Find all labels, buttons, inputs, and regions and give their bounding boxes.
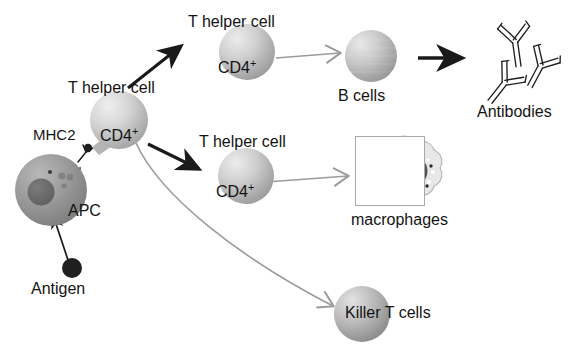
cd4-mid-label: CD4+ bbox=[216, 182, 254, 200]
arrow-layer bbox=[0, 0, 578, 352]
antigen-dot bbox=[62, 258, 82, 278]
arrow-thelper-to-thelper-mid bbox=[148, 144, 199, 169]
apc-granule bbox=[48, 170, 52, 174]
t-helper-top-label: T helper cell bbox=[188, 14, 275, 30]
antibody-group bbox=[478, 20, 564, 112]
mhc2-label: MHC2 bbox=[33, 127, 76, 142]
cd4-top-label: CD4+ bbox=[218, 58, 256, 76]
cd4-main-label: CD4+ bbox=[100, 126, 138, 144]
t-helper-mid-label: T helper cell bbox=[199, 134, 286, 150]
arrow-thelper-top-to-bcells bbox=[276, 53, 340, 58]
apc-label: APC bbox=[68, 203, 101, 219]
arrow-thelper-mid-to-macrophages bbox=[266, 176, 348, 182]
apc-nucleus bbox=[28, 179, 55, 206]
antibodies-label: Antibodies bbox=[477, 104, 552, 120]
mhc2-peptide-dot bbox=[84, 144, 92, 152]
antibody-2 bbox=[516, 42, 563, 94]
immune-response-diagram: T helper cell CD4+ MHC2 APC Antigen T he… bbox=[0, 0, 578, 352]
antigen-label: Antigen bbox=[31, 281, 85, 297]
b-cells-label: B cells bbox=[338, 88, 385, 104]
macrophage-box bbox=[355, 136, 425, 206]
macrophages-label: macrophages bbox=[351, 212, 448, 228]
killer-t-cells-label: Killer T cells bbox=[345, 305, 431, 321]
t-helper-main-label: T helper cell bbox=[68, 80, 155, 96]
